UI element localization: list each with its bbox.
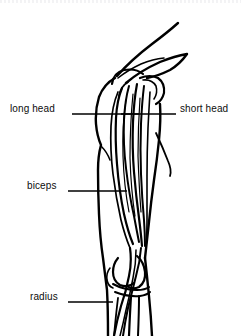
anatomy-figure: long head short head biceps radius [0, 0, 241, 336]
label-radius: radius [30, 291, 58, 302]
arm-outline-right [145, 104, 171, 336]
label-short-head: short head [180, 103, 228, 114]
radius-bone-icon [129, 296, 139, 336]
clavicle-icon [117, 23, 187, 83]
biceps-tendon-icon [114, 248, 141, 336]
label-biceps: biceps [27, 180, 57, 191]
label-long-head: long head [10, 103, 55, 114]
biceps-diagram-svg [0, 0, 241, 336]
